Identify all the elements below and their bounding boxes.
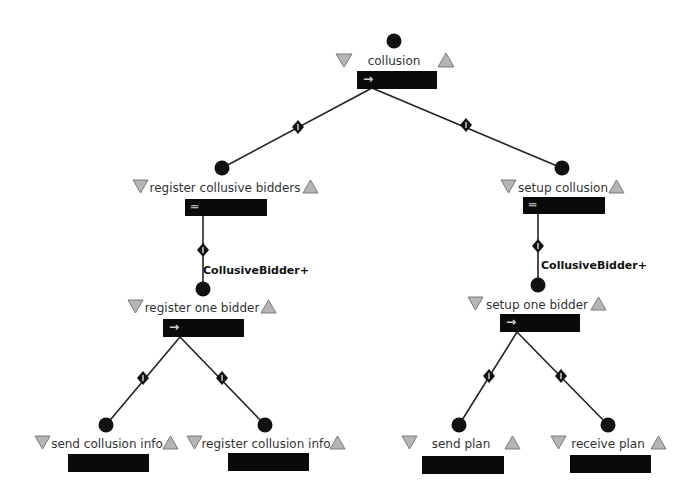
diamond-marker-icon	[532, 239, 544, 253]
goal-label-receive-plan: receive plan	[571, 437, 645, 451]
sequence-arrow-icon: →	[363, 72, 373, 86]
diamond-marker-icon	[197, 243, 209, 257]
collapse-triangle-icon[interactable]	[187, 436, 202, 449]
edge-markers	[137, 118, 567, 385]
collapse-triangle-icon[interactable]	[336, 54, 352, 67]
collapse-triangle-icon[interactable]	[551, 436, 566, 449]
goal-node-dot[interactable]	[258, 418, 273, 433]
goal-node-dot[interactable]	[555, 161, 570, 176]
multiplicity-label-right: CollusiveBidder+	[541, 259, 647, 272]
goal-label-send-plan: send plan	[432, 437, 491, 451]
diamond-marker-icon	[292, 120, 304, 134]
goal-node-dot[interactable]	[196, 282, 211, 297]
goal-label-setup-one-bidder: setup one bidder	[486, 298, 588, 312]
expand-triangle-icon[interactable]	[303, 180, 318, 193]
operator-bar-setup-one-bidder[interactable]: →	[500, 314, 580, 332]
goal-label-collusion: collusion	[368, 54, 421, 68]
goal-label-send-collusion-info: send collusion info	[51, 437, 163, 451]
expand-triangle-icon[interactable]	[651, 436, 666, 449]
goal-node-dot[interactable]	[531, 278, 546, 293]
collapse-triangle-icon[interactable]	[35, 436, 50, 449]
operator-bar-register-collusive-bidders[interactable]: ═	[185, 199, 267, 216]
operator-bar-collusion[interactable]: →	[357, 71, 437, 89]
collapse-triangle-icon[interactable]	[128, 300, 143, 313]
expand-triangle-icon[interactable]	[261, 300, 276, 313]
goal-node-dot[interactable]	[99, 418, 114, 433]
collapse-triangle-icon[interactable]	[501, 180, 516, 193]
goal-label-setup-collusion: setup collusion	[518, 181, 608, 195]
multiplicity-label-left: CollusiveBidder+	[203, 264, 309, 277]
triangles	[35, 53, 666, 449]
expand-triangle-icon[interactable]	[609, 180, 624, 193]
operator-bar-register-collusion-info[interactable]	[228, 453, 309, 471]
operator-bar-send-collusion-info[interactable]	[68, 454, 149, 472]
goal-node-dot[interactable]	[387, 34, 402, 49]
diamond-marker-icon	[137, 371, 149, 385]
goal-label-register-collusion-info: register collusion info	[201, 437, 330, 451]
sequence-arrow-icon: →	[169, 320, 179, 334]
expand-triangle-icon[interactable]	[591, 297, 606, 310]
goal-node-dot[interactable]	[601, 418, 616, 433]
operator-bar-register-one-bidder[interactable]: →	[163, 319, 244, 337]
expand-triangle-icon[interactable]	[163, 436, 178, 449]
edges	[106, 88, 608, 425]
collapse-triangle-icon[interactable]	[468, 297, 483, 310]
goal-label-register-one-bidder: register one bidder	[145, 301, 260, 315]
expand-triangle-icon[interactable]	[330, 436, 345, 449]
collapse-triangle-icon[interactable]	[402, 436, 417, 449]
collapse-triangle-icon[interactable]	[133, 180, 148, 193]
expand-triangle-icon[interactable]	[438, 53, 454, 67]
sequence-arrow-icon: →	[506, 315, 516, 329]
goal-label-register-collusive-bidders: register collusive bidders	[150, 181, 301, 195]
parallel-equals-icon: ═	[529, 198, 536, 212]
operator-bar-receive-plan[interactable]	[570, 455, 651, 473]
expand-triangle-icon[interactable]	[505, 436, 520, 449]
goal-node-dot[interactable]	[215, 161, 230, 176]
operator-bar-setup-collusion[interactable]: ═	[523, 197, 605, 214]
operator-bar-send-plan[interactable]	[422, 456, 504, 474]
goal-node-dot[interactable]	[452, 418, 467, 433]
diamond-marker-icon	[216, 371, 228, 385]
parallel-equals-icon: ═	[191, 200, 198, 214]
